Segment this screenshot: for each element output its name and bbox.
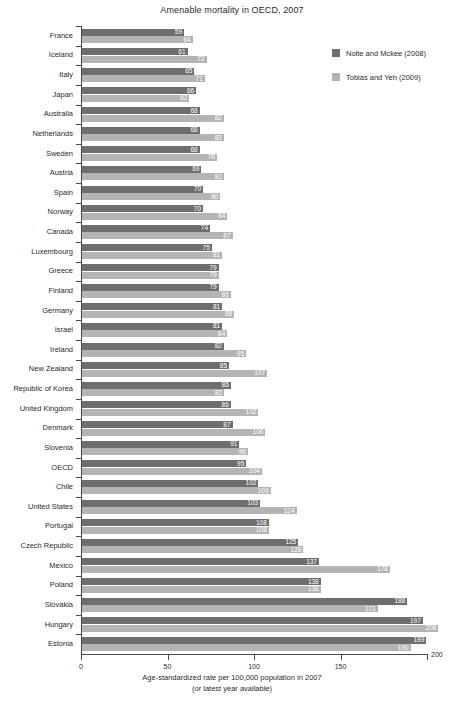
bar-series-1[interactable]: 88	[82, 311, 234, 318]
bar-series-1[interactable]: 84	[82, 213, 227, 220]
bar-series-1[interactable]: 87	[82, 232, 233, 239]
bar-series-1[interactable]: 64	[82, 36, 193, 43]
category-label: Luxembourg	[0, 247, 73, 256]
y-axis-tick	[76, 105, 81, 106]
bar-value-label: 68	[190, 146, 197, 154]
category-label: Spain	[0, 188, 73, 197]
bar-series-0[interactable]: 68	[82, 146, 200, 153]
bar-series-1[interactable]: 82	[82, 389, 224, 396]
bar-value-label: 70	[194, 205, 201, 213]
bar-series-0[interactable]: 68	[82, 127, 200, 134]
bar-series-0[interactable]: 81	[82, 303, 222, 310]
bar-value-label: 84	[218, 330, 225, 338]
bar-series-1[interactable]: 80	[82, 193, 220, 200]
bar-series-1[interactable]: 109	[82, 487, 271, 494]
bar-series-1[interactable]: 72	[82, 56, 207, 63]
bar-series-0[interactable]: 75	[82, 244, 212, 251]
y-axis-tick	[76, 163, 81, 164]
bar-series-0[interactable]: 81	[82, 323, 222, 330]
bar-series-0[interactable]: 125	[82, 539, 298, 546]
bar-series-1[interactable]: 71	[82, 75, 205, 82]
bar-series-1[interactable]: 171	[82, 605, 378, 612]
bar-series-1[interactable]: 86	[82, 291, 231, 298]
bar-series-1[interactable]: 108	[82, 527, 269, 534]
bar-series-0[interactable]: 85	[82, 362, 229, 369]
y-axis-tick	[76, 183, 81, 184]
bar-series-1[interactable]: 82	[82, 115, 224, 122]
y-axis-tick	[76, 242, 81, 243]
category-label: Republic of Korea	[0, 384, 73, 393]
x-axis-tick	[341, 654, 342, 660]
bar-series-0[interactable]: 86	[82, 401, 231, 408]
bar-series-0[interactable]: 197	[82, 617, 423, 624]
bar-value-label: 68	[190, 107, 197, 115]
bar-group: Estonia199190	[81, 634, 427, 654]
category-label: United States	[0, 502, 73, 511]
bar-value-label: 82	[215, 134, 222, 142]
bar-series-1[interactable]: 62	[82, 95, 189, 102]
bar-series-1[interactable]: 124	[82, 507, 297, 514]
category-label: Netherlands	[0, 129, 73, 138]
y-axis-tick	[76, 615, 81, 616]
bar-series-0[interactable]: 66	[82, 87, 196, 94]
bar-series-1[interactable]: 96	[82, 448, 248, 455]
bar-series-1[interactable]: 82	[82, 134, 224, 141]
bar-series-0[interactable]: 82	[82, 343, 224, 350]
bar-series-1[interactable]: 128	[82, 546, 303, 553]
category-label: Poland	[0, 580, 73, 589]
x-axis-tick	[427, 654, 428, 660]
bar-series-1[interactable]: 95	[82, 350, 246, 357]
category-label: Norway	[0, 207, 73, 216]
bar-series-0[interactable]: 199	[82, 637, 426, 644]
category-label: Finland	[0, 286, 73, 295]
bar-series-0[interactable]: 91	[82, 441, 239, 448]
bar-series-1[interactable]: 106	[82, 429, 265, 436]
y-axis-tick	[76, 634, 81, 635]
bar-series-0[interactable]: 70	[82, 205, 203, 212]
bar-series-1[interactable]: 78	[82, 154, 217, 161]
bar-value-label: 78	[208, 153, 215, 161]
bar-series-0[interactable]: 138	[82, 578, 321, 585]
bar-series-1[interactable]: 82	[82, 173, 224, 180]
bar-series-1[interactable]: 81	[82, 252, 222, 259]
bar-series-1[interactable]: 190	[82, 644, 411, 651]
bar-series-1[interactable]: 102	[82, 409, 258, 416]
bar-series-1[interactable]: 79	[82, 272, 219, 279]
bar-value-label: 128	[291, 546, 302, 554]
bar-series-0[interactable]: 65	[82, 68, 194, 75]
bar-series-0[interactable]: 87	[82, 421, 233, 428]
y-axis-tick	[76, 576, 81, 577]
bar-series-1[interactable]: 138	[82, 586, 321, 593]
bar-series-0[interactable]: 137	[82, 558, 319, 565]
bar-series-0[interactable]: 59	[82, 29, 184, 36]
bar-series-0[interactable]: 108	[82, 519, 269, 526]
bar-series-0[interactable]: 79	[82, 264, 219, 271]
y-axis-tick	[76, 144, 81, 145]
bar-series-0[interactable]: 95	[82, 460, 246, 467]
bar-value-label: 79	[209, 271, 216, 279]
bar-series-0[interactable]: 79	[82, 284, 219, 291]
bar-series-0[interactable]: 188	[82, 598, 407, 605]
bar-series-0[interactable]: 61	[82, 48, 188, 55]
bar-series-0[interactable]: 70	[82, 186, 203, 193]
y-axis-tick	[76, 26, 81, 27]
y-axis-tick	[76, 262, 81, 263]
bar-series-1[interactable]: 107	[82, 370, 267, 377]
bar-series-1[interactable]: 84	[82, 330, 227, 337]
bar-series-0[interactable]: 68	[82, 107, 200, 114]
bar-series-1[interactable]: 178	[82, 566, 390, 573]
bar-series-0[interactable]: 74	[82, 225, 210, 232]
category-label: New Zealand	[0, 364, 73, 373]
bar-series-1[interactable]: 104	[82, 468, 262, 475]
y-axis-tick	[76, 65, 81, 66]
bar-series-0[interactable]: 103	[82, 500, 260, 507]
y-axis-tick	[76, 301, 81, 302]
bar-group: Italy6571	[81, 65, 427, 85]
bar-series-0[interactable]: 86	[82, 382, 231, 389]
bar-value-label: 72	[197, 55, 204, 63]
bar-group: Greece7979	[81, 262, 427, 282]
bar-series-0[interactable]: 69	[82, 166, 201, 173]
bar-series-0[interactable]: 102	[82, 480, 258, 487]
category-label: Australia	[0, 109, 73, 118]
bar-series-1[interactable]: 206	[82, 625, 438, 632]
